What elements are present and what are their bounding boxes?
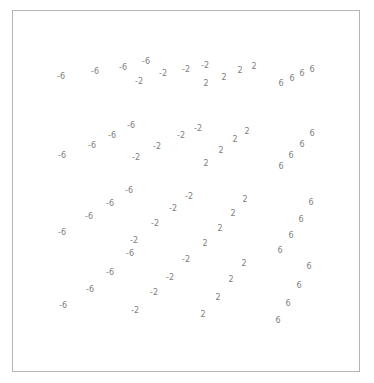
plot-axes-frame — [12, 10, 360, 372]
contour-plot-figure: -6-6-6-6-2-2-2-222226666-6-6-6-6-2-2-2-2… — [0, 0, 374, 383]
